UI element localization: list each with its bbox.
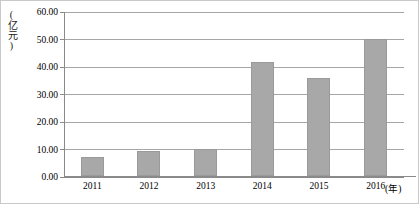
y-axis-title: (亿元) [3, 9, 19, 55]
y-tick-mark [60, 94, 64, 95]
bar-slot [64, 12, 121, 176]
y-tick-label: 0.00 [41, 172, 58, 182]
y-tick-label: 60.00 [37, 7, 58, 17]
x-tick-label: 2012 [140, 181, 159, 191]
x-axis-unit-label: (年) [385, 181, 401, 195]
y-tick-label: 50.00 [37, 35, 58, 45]
plot-area [64, 12, 404, 177]
y-tick-mark [60, 149, 64, 150]
bar[interactable] [81, 157, 104, 176]
x-tick-label: 2016 [366, 181, 385, 191]
y-tick-label: 30.00 [37, 90, 58, 100]
bar[interactable] [251, 62, 274, 176]
y-tick-label: 10.00 [37, 145, 58, 155]
y-tick-mark [60, 177, 64, 178]
bar[interactable] [137, 151, 160, 176]
bar-slot [234, 12, 291, 176]
bar-slot [177, 12, 234, 176]
y-tick-label: 20.00 [37, 117, 58, 127]
y-tick-mark [60, 39, 64, 40]
x-axis-tick-labels: 201120122013201420152016 [64, 181, 416, 197]
y-tick-mark [60, 67, 64, 68]
y-tick-mark [60, 122, 64, 123]
bar[interactable] [194, 149, 217, 177]
bar[interactable] [307, 78, 330, 176]
y-axis-tick-labels: 0.0010.0020.0030.0040.0050.0060.00 [19, 12, 61, 177]
x-tick-label: 2011 [83, 181, 102, 191]
bar-slot [121, 12, 178, 176]
y-tick-label: 40.00 [37, 62, 58, 72]
bar-chart: (亿元) 0.0010.0020.0030.0040.0050.0060.00 … [0, 0, 419, 204]
bar-slot [347, 12, 404, 176]
y-tick-mark [60, 12, 64, 13]
bar-slot [291, 12, 348, 176]
x-tick-label: 2015 [310, 181, 329, 191]
x-tick-label: 2013 [196, 181, 215, 191]
bar-series [64, 12, 404, 177]
x-tick-label: 2014 [253, 181, 272, 191]
bar[interactable] [364, 39, 387, 177]
